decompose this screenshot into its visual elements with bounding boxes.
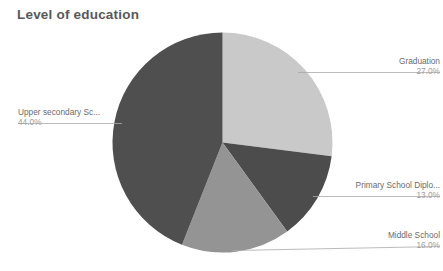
pie-slice-graduation[interactable] <box>223 33 333 157</box>
callout-graduation-value: 27.0% <box>399 67 440 76</box>
callout-upper-secondary-label: Upper secondary Sc... <box>18 108 100 117</box>
callout-primary-school[interactable]: Primary School Diplo... 13.0% <box>356 181 440 199</box>
callout-upper-secondary[interactable]: Upper secondary Sc... 44.0% <box>18 108 100 126</box>
callout-graduation[interactable]: Graduation 27.0% <box>399 57 440 75</box>
pie-slices <box>112 32 332 252</box>
callout-middle-school[interactable]: Middle School 16.0% <box>388 231 440 249</box>
callout-graduation-label: Graduation <box>399 57 440 66</box>
pie-chart-figure: Level of education Graduation 27.0% Prim… <box>0 0 443 271</box>
callout-middle-school-value: 16.0% <box>388 241 440 250</box>
callout-primary-school-value: 13.0% <box>356 191 440 200</box>
callout-upper-secondary-value: 44.0% <box>18 118 100 127</box>
callout-middle-school-label: Middle School <box>388 231 440 240</box>
callout-primary-school-label: Primary School Diplo... <box>356 181 440 190</box>
pie-chart-canvas <box>0 0 443 271</box>
